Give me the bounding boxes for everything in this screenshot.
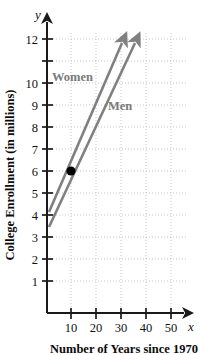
x-tick-label-10: 10 — [65, 321, 78, 335]
y-tick-label-2: 2 — [32, 253, 38, 267]
x-tick-label-40: 40 — [140, 321, 153, 335]
y-tick-label-4: 4 — [32, 209, 39, 223]
y-tick-label-6: 6 — [32, 165, 38, 179]
y-tick-label-12: 12 — [26, 33, 39, 47]
y-axis-title: College Enrollment (in millions) — [3, 90, 17, 261]
y-axis-tick-labels: 12 10 9 8 7 6 5 4 3 2 1 — [26, 33, 39, 289]
y-tick-label-1: 1 — [32, 275, 38, 289]
intersection-point-marker — [66, 166, 75, 175]
x-tick-label-50: 50 — [165, 321, 178, 335]
series-line-women — [49, 43, 122, 212]
x-tick-label-30: 30 — [115, 321, 128, 335]
y-tick-label-9: 9 — [32, 99, 38, 113]
y-axis-variable-label: y — [33, 7, 41, 22]
chart-canvas: 12 10 9 8 7 6 5 4 3 2 1 10 20 30 40 50 y… — [0, 0, 200, 355]
y-tick-label-5: 5 — [32, 187, 38, 201]
y-tick-label-7: 7 — [32, 143, 38, 157]
y-tick-label-8: 8 — [32, 121, 38, 135]
y-tick-label-3: 3 — [32, 231, 38, 245]
x-tick-label-20: 20 — [90, 321, 103, 335]
x-axis-caption: Number of Years since 1970 — [50, 342, 198, 355]
series-label-men: Men — [108, 99, 132, 113]
college-enrollment-chart: 12 10 9 8 7 6 5 4 3 2 1 10 20 30 40 50 y… — [0, 0, 200, 355]
y-tick-label-10: 10 — [26, 77, 39, 91]
x-axis-tick-labels: 10 20 30 40 50 — [65, 321, 178, 335]
series-label-women: Women — [52, 70, 93, 84]
x-axis-variable-label: x — [187, 319, 194, 334]
